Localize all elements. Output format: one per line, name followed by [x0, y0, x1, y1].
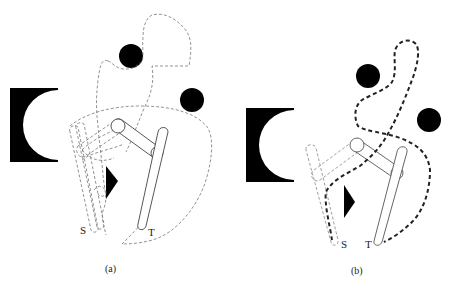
robot-arm-target-a: [111, 119, 168, 230]
figure-canvas: S T (a) S T (b): [0, 0, 450, 290]
caption-a: (a): [105, 263, 116, 275]
triangle-obstacle-a: [106, 166, 118, 199]
target-label-a: T: [148, 226, 155, 238]
robot-arm-start-a: [70, 119, 126, 232]
target-label-b: T: [365, 238, 372, 250]
circle-obstacle-upper-a: [119, 44, 143, 68]
panel-a: S T (a): [10, 14, 212, 275]
panel-b: S T (b): [246, 41, 441, 277]
robot-arm-start-b: [306, 141, 361, 245]
robot-arm-target-b: [350, 138, 407, 245]
start-label-a: S: [80, 224, 86, 236]
c-shaped-obstacle-a: [10, 88, 58, 162]
circle-obstacle-right-b: [417, 108, 441, 132]
start-label-b: S: [341, 238, 347, 250]
c-shaped-obstacle-b: [246, 108, 294, 182]
circle-obstacle-upper-b: [356, 64, 380, 88]
caption-b: (b): [351, 265, 363, 277]
circle-obstacle-right-a: [180, 88, 204, 112]
triangle-obstacle-b: [344, 185, 355, 218]
